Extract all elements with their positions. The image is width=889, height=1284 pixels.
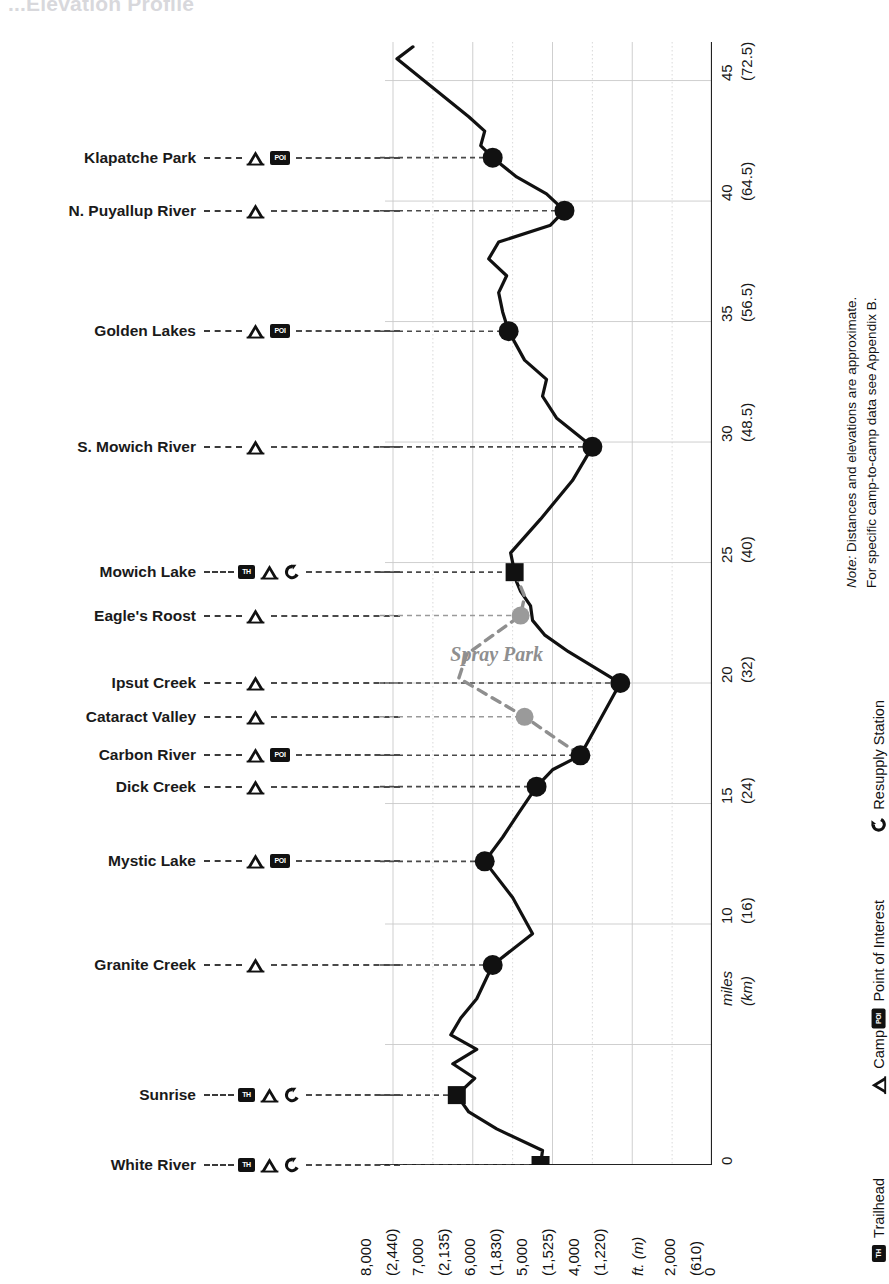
station-icons xyxy=(246,709,265,725)
elevation-tick: 4,000 xyxy=(565,1238,582,1276)
elevation-tick: 5,000 xyxy=(513,1238,530,1276)
legend-label: Point of Interest xyxy=(871,900,887,1002)
camp-icon xyxy=(246,957,265,973)
station-icons: POI xyxy=(246,150,290,166)
leader-dashes xyxy=(204,571,234,573)
station-icons: POI xyxy=(246,747,290,763)
distance-tick-miles: 35 xyxy=(718,305,735,322)
elevation-tick: (1,220) xyxy=(591,1228,608,1276)
camp-icon xyxy=(246,675,265,691)
station-row[interactable]: Dick Creek xyxy=(0,776,400,798)
station-row[interactable]: Mowich LakeTH xyxy=(0,561,400,583)
station-row[interactable]: White RiverTH xyxy=(0,1154,400,1176)
leader-dashes xyxy=(204,446,242,448)
resupply-icon xyxy=(284,1157,300,1173)
station-row[interactable]: Ipsut Creek xyxy=(0,672,400,694)
station-row[interactable]: Eagle's Roost xyxy=(0,605,400,627)
station-row[interactable]: SunriseTH xyxy=(0,1084,400,1106)
distance-tick-miles: 25 xyxy=(718,546,735,563)
station-icons xyxy=(246,779,265,795)
distance-tick-miles: 15 xyxy=(718,787,735,804)
elevation-tick: (1,830) xyxy=(487,1228,504,1276)
spray-park-annotation: Spray Park xyxy=(450,643,543,666)
station-icons xyxy=(246,957,265,973)
legend-label: Resupply Station xyxy=(871,700,887,810)
leader-dashes xyxy=(204,786,242,788)
distance-tick-km: (64.5) xyxy=(738,162,755,201)
elevation-tick: (2,135) xyxy=(435,1228,452,1276)
station-icons xyxy=(246,608,265,624)
leader-dashes xyxy=(204,1164,234,1166)
leader-dashes xyxy=(204,157,242,159)
station-row[interactable]: S. Mowich River xyxy=(0,436,400,458)
station-row[interactable]: Golden LakesPOI xyxy=(0,320,400,342)
station-name: N. Puyallup River xyxy=(0,202,200,220)
elevation-profile-plot: Spray Park xyxy=(380,40,712,1165)
chart-note: Note: Distances and elevations are appro… xyxy=(842,297,881,588)
camp-icon xyxy=(246,608,265,624)
distance-tick-miles: 45 xyxy=(718,64,735,81)
legend-label: Trailhead xyxy=(871,1178,887,1238)
distance-axis-unit-alt: (km) xyxy=(738,976,755,1006)
leader-dashes xyxy=(204,330,242,332)
camp-icon xyxy=(246,439,265,455)
legend-icon-wrap xyxy=(871,817,887,833)
legend-item: POIPoint of Interest xyxy=(871,900,887,1029)
leader-dashes xyxy=(204,860,242,862)
station-icons: TH xyxy=(238,1157,300,1173)
station-name: Carbon River xyxy=(0,746,200,764)
elevation-tick: 7,000 xyxy=(409,1238,426,1276)
station-icons xyxy=(246,675,265,691)
distance-tick-km: (48.5) xyxy=(738,403,755,442)
poi-icon: POI xyxy=(270,324,290,338)
elevation-tick: 8,000 xyxy=(357,1238,374,1276)
legend-item: THTrailhead xyxy=(871,1178,887,1262)
poi-icon: POI xyxy=(872,1009,886,1029)
elevation-tick: 0 xyxy=(701,1268,718,1276)
station-icons: POI xyxy=(246,853,290,869)
station-name: S. Mowich River xyxy=(0,438,200,456)
distance-tick-km: (72.5) xyxy=(738,41,755,80)
elevation-tick: 6,000 xyxy=(461,1238,478,1276)
station-row[interactable]: Granite Creek xyxy=(0,954,400,976)
leader-dashes xyxy=(204,615,242,617)
camp-icon xyxy=(246,150,265,166)
station-row[interactable]: Cataract Valley xyxy=(0,706,400,728)
camp-icon xyxy=(246,747,265,763)
trailhead-icon: TH xyxy=(872,1245,886,1262)
distance-tick-miles: 10 xyxy=(718,907,735,924)
distance-tick-km: (56.5) xyxy=(738,282,755,321)
station-name: Cataract Valley xyxy=(0,708,200,726)
camp-icon xyxy=(260,564,279,580)
station-name: Mowich Lake xyxy=(0,563,200,581)
station-name: Golden Lakes xyxy=(0,322,200,340)
station-row[interactable]: Klapatche ParkPOI xyxy=(0,147,400,169)
legend-label: Camp xyxy=(871,1030,887,1069)
distance-tick-km: (24) xyxy=(738,777,755,804)
station-row[interactable]: N. Puyallup River xyxy=(0,200,400,222)
leader-dashes xyxy=(204,754,242,756)
note-line-1: Note: Distances and elevations are appro… xyxy=(844,297,859,588)
camp-icon xyxy=(246,709,265,725)
camp-icon xyxy=(260,1157,279,1173)
station-row[interactable]: Carbon RiverPOI xyxy=(0,744,400,766)
trailhead-icon: TH xyxy=(238,565,255,579)
note-line-2: For specific camp-to-camp data see Appen… xyxy=(864,298,879,588)
leader-dashes xyxy=(204,1094,234,1096)
camp-icon xyxy=(246,323,265,339)
poi-icon: POI xyxy=(270,151,290,165)
trailhead-icon: TH xyxy=(238,1088,255,1102)
legend-item: Camp xyxy=(871,1030,887,1095)
station-icons xyxy=(246,439,265,455)
station-name: Dick Creek xyxy=(0,778,200,796)
station-name: Granite Creek xyxy=(0,956,200,974)
distance-tick-km: (40) xyxy=(738,536,755,563)
resupply-icon xyxy=(284,564,300,580)
elevation-tick: ft. (m) xyxy=(629,1237,646,1276)
distance-tick-miles: 40 xyxy=(718,184,735,201)
distance-tick-miles: 20 xyxy=(718,666,735,683)
station-name: White River xyxy=(0,1156,200,1174)
distance-tick-km: (16) xyxy=(738,897,755,924)
resupply-icon xyxy=(284,1087,300,1103)
station-row[interactable]: Mystic LakePOI xyxy=(0,850,400,872)
